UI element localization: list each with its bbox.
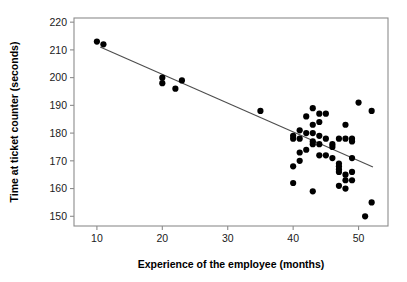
data-point bbox=[369, 199, 375, 205]
data-point bbox=[349, 169, 355, 175]
data-point bbox=[349, 177, 355, 183]
data-point bbox=[310, 141, 316, 147]
data-point bbox=[329, 155, 335, 161]
data-point bbox=[323, 152, 329, 158]
data-point bbox=[100, 41, 106, 47]
data-point bbox=[303, 147, 309, 153]
data-point bbox=[336, 169, 342, 175]
data-point bbox=[316, 141, 322, 147]
data-point bbox=[336, 136, 342, 142]
data-point bbox=[303, 113, 309, 119]
data-point bbox=[342, 122, 348, 128]
x-tick-label: 10 bbox=[91, 232, 103, 244]
data-point bbox=[310, 130, 316, 136]
data-point bbox=[159, 80, 165, 86]
y-tick-label: 170 bbox=[49, 155, 67, 167]
data-point bbox=[342, 136, 348, 142]
x-axis-title: Experience of the employee (months) bbox=[138, 258, 325, 270]
data-point bbox=[323, 111, 329, 117]
y-tick-label: 210 bbox=[49, 44, 67, 56]
data-point bbox=[355, 99, 361, 105]
y-tick-label: 220 bbox=[49, 16, 67, 28]
data-point bbox=[310, 188, 316, 194]
y-tick-label: 190 bbox=[49, 99, 67, 111]
x-tick-label: 40 bbox=[287, 232, 299, 244]
data-point bbox=[310, 105, 316, 111]
chart-canvas: 1501601701801902002102201020304050Experi… bbox=[0, 0, 407, 282]
data-point bbox=[342, 172, 348, 178]
x-tick-label: 50 bbox=[353, 232, 365, 244]
data-point bbox=[342, 185, 348, 191]
data-point bbox=[323, 136, 329, 142]
scatter-plot-figure: 1501601701801902002102201020304050Experi… bbox=[0, 0, 407, 282]
data-point bbox=[290, 163, 296, 169]
data-point bbox=[297, 149, 303, 155]
data-point bbox=[329, 144, 335, 150]
data-series-employees bbox=[94, 38, 375, 219]
data-point bbox=[290, 136, 296, 142]
data-point bbox=[362, 213, 368, 219]
x-tick-label: 20 bbox=[156, 232, 168, 244]
x-tick-label: 30 bbox=[222, 232, 234, 244]
data-point bbox=[303, 130, 309, 136]
data-point bbox=[342, 177, 348, 183]
data-point bbox=[297, 127, 303, 133]
y-tick-label: 200 bbox=[49, 71, 67, 83]
data-point bbox=[316, 152, 322, 158]
data-point bbox=[316, 119, 322, 125]
data-point bbox=[316, 111, 322, 117]
y-axis: 150160170180190200210220 bbox=[49, 16, 74, 222]
data-point bbox=[349, 138, 355, 144]
x-axis: 1020304050 bbox=[91, 226, 365, 244]
data-point bbox=[316, 133, 322, 139]
y-tick-label: 160 bbox=[49, 182, 67, 194]
y-axis-title: Time at ticket counter (seconds) bbox=[8, 42, 20, 203]
y-tick-label: 180 bbox=[49, 127, 67, 139]
data-point bbox=[290, 180, 296, 186]
data-point bbox=[94, 38, 100, 44]
data-point bbox=[172, 86, 178, 92]
data-point bbox=[297, 158, 303, 164]
y-tick-label: 150 bbox=[49, 210, 67, 222]
plot-frame bbox=[74, 18, 388, 226]
data-point bbox=[179, 77, 185, 83]
data-point bbox=[349, 155, 355, 161]
data-point bbox=[310, 122, 316, 128]
data-point bbox=[257, 108, 263, 114]
data-point bbox=[369, 108, 375, 114]
data-point bbox=[159, 75, 165, 81]
data-point bbox=[297, 136, 303, 142]
data-point bbox=[336, 183, 342, 189]
